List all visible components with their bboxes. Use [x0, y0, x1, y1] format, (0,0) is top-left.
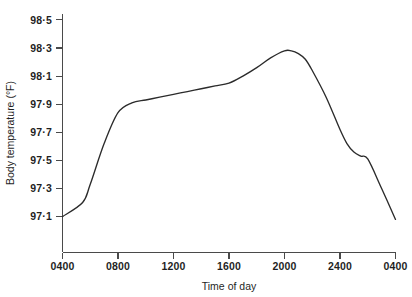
- x-tick-label-0400-start: 0400: [50, 260, 74, 272]
- x-tick-label-2400: 2400: [328, 260, 352, 272]
- x-tick-label-1600: 1600: [217, 260, 241, 272]
- y-tick-label-98-1: 98·1: [30, 70, 52, 82]
- y-tick-label-97-9: 97·9: [30, 98, 52, 110]
- x-tick-labels: 0400 0800 1200 1600 2000 2400 0400: [50, 260, 407, 272]
- x-axis-title: Time of day: [202, 280, 257, 292]
- line-chart: 98·5 98·3 98·1 97·9 97·7 97·5 97·3 97·1 …: [0, 0, 412, 297]
- x-tick-label-1200: 1200: [161, 260, 185, 272]
- chart-container: 98·5 98·3 98·1 97·9 97·7 97·5 97·3 97·1 …: [0, 0, 412, 297]
- y-tick-marks: [56, 20, 63, 217]
- x-tick-label-0800: 0800: [106, 260, 130, 272]
- temperature-curve: [63, 50, 396, 219]
- x-tick-marks: [63, 253, 396, 260]
- y-axis-title: Body temperature (°F): [4, 81, 16, 185]
- y-tick-label-98-5: 98·5: [30, 14, 52, 26]
- x-tick-label-2000: 2000: [272, 260, 296, 272]
- x-tick-label-0400-end: 0400: [383, 260, 407, 272]
- y-tick-labels: 98·5 98·3 98·1 97·9 97·7 97·5 97·3 97·1: [30, 14, 52, 223]
- y-tick-label-97-1: 97·1: [30, 210, 52, 222]
- y-tick-label-97-7: 97·7: [30, 126, 52, 138]
- y-tick-label-98-3: 98·3: [30, 42, 52, 54]
- y-tick-label-97-3: 97·3: [30, 182, 52, 194]
- y-tick-label-97-5: 97·5: [30, 154, 52, 166]
